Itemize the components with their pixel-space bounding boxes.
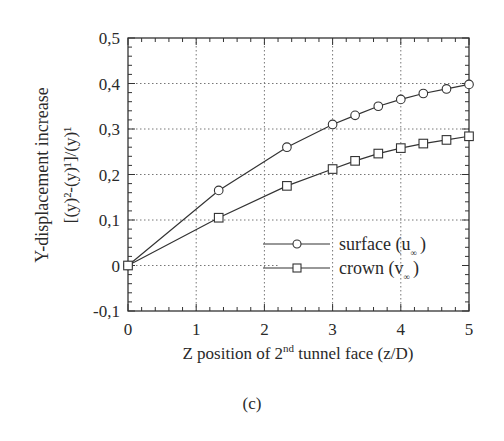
svg-text:4: 4 bbox=[397, 320, 406, 339]
x-axis-label: Z position of 2nd tunnel face (z/D) bbox=[182, 342, 413, 363]
svg-text:0,1: 0,1 bbox=[99, 211, 120, 230]
data-point bbox=[124, 261, 133, 270]
svg-text:0,5: 0,5 bbox=[99, 29, 120, 48]
svg-text:-0,1: -0,1 bbox=[93, 302, 120, 321]
data-point bbox=[351, 157, 360, 166]
y-axis-label-line2: [(y)²-(y)¹]/(y)¹ bbox=[61, 127, 80, 223]
data-point bbox=[397, 144, 406, 153]
x-axis-label-sup: nd bbox=[283, 342, 295, 354]
data-point bbox=[351, 111, 360, 120]
data-point bbox=[328, 120, 337, 129]
svg-text:0,4: 0,4 bbox=[99, 75, 121, 94]
figure-caption: (c) bbox=[0, 394, 504, 414]
figure: -0,100,10,20,30,40,5 012345 Y-displaceme… bbox=[0, 0, 504, 441]
data-point bbox=[374, 149, 383, 158]
line-chart: -0,100,10,20,30,40,5 012345 Y-displaceme… bbox=[0, 0, 504, 441]
svg-text:crown (v∞): crown (v∞) bbox=[339, 258, 419, 282]
svg-text:5: 5 bbox=[465, 320, 474, 339]
svg-text:0,2: 0,2 bbox=[99, 166, 120, 185]
svg-text:2: 2 bbox=[260, 320, 269, 339]
y-tick-labels: -0,100,10,20,30,40,5 bbox=[93, 29, 120, 321]
x-axis-label-post: tunnel face (z/D) bbox=[294, 344, 413, 363]
svg-text:3: 3 bbox=[328, 320, 337, 339]
data-point bbox=[328, 165, 337, 174]
data-point bbox=[419, 139, 428, 148]
y-axis-label-line1: Y-displacement increase bbox=[32, 87, 52, 262]
svg-text:surface (u∞): surface (u∞) bbox=[339, 234, 426, 258]
data-point bbox=[465, 80, 474, 89]
data-point bbox=[397, 95, 406, 104]
data-point bbox=[442, 136, 451, 145]
data-point bbox=[374, 102, 383, 111]
data-point bbox=[214, 213, 223, 222]
legend: surface (u∞) crown (v∞) bbox=[263, 234, 426, 282]
legend-item-crown: crown (v∞) bbox=[263, 258, 419, 282]
x-axis-label-pre: Z position of 2 bbox=[182, 344, 283, 363]
data-point bbox=[442, 85, 451, 94]
data-point bbox=[283, 182, 292, 191]
svg-text:0: 0 bbox=[124, 320, 133, 339]
data-point bbox=[214, 186, 223, 195]
legend-item-surface: surface (u∞) bbox=[263, 234, 426, 258]
svg-text:1: 1 bbox=[192, 320, 201, 339]
data-point bbox=[465, 132, 474, 141]
data-point bbox=[283, 143, 292, 152]
square-marker-icon bbox=[293, 264, 301, 272]
svg-text:0,3: 0,3 bbox=[99, 120, 120, 139]
x-tick-labels: 012345 bbox=[124, 320, 474, 339]
data-point bbox=[419, 89, 428, 98]
svg-text:0: 0 bbox=[112, 257, 121, 276]
circle-marker-icon bbox=[293, 240, 301, 248]
